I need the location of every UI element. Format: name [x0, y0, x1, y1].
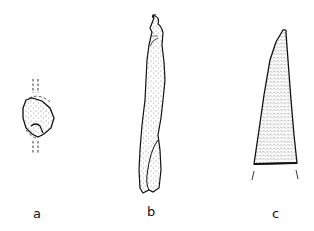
artifact-drawings [0, 0, 314, 231]
label-b: b [147, 205, 155, 218]
label-a: a [33, 207, 41, 220]
artifact-b [139, 15, 165, 193]
artifact-a [23, 79, 54, 153]
artifact-c [252, 30, 298, 180]
label-c: c [272, 207, 279, 220]
